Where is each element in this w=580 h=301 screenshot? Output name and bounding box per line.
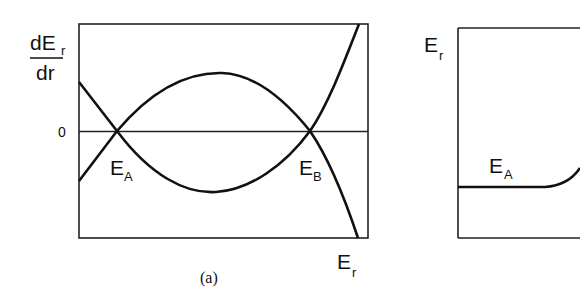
panel-caption: (a): [200, 269, 218, 287]
level-label: E: [489, 154, 503, 177]
point-b-sub: B: [313, 169, 322, 184]
ylabel-numerator: dE: [30, 31, 56, 54]
figure: dE r dr 0 E A E B E r (a) E r E A: [0, 0, 580, 301]
xlabel: E: [337, 250, 351, 273]
er-profile-curve: [458, 168, 580, 187]
ylabel-sub: r: [439, 48, 444, 63]
xlabel-sub: r: [352, 265, 357, 280]
level-label-sub: A: [504, 167, 513, 182]
zero-tick-label: 0: [58, 124, 66, 140]
point-b-label: E: [299, 156, 313, 179]
ylabel-numerator-sub: r: [61, 43, 66, 58]
point-a-label: E: [110, 156, 124, 179]
ylabel: E: [424, 33, 438, 56]
ylabel-denominator: dr: [36, 61, 55, 84]
panel-a: dE r dr 0 E A E B E r (a): [30, 24, 368, 287]
point-a-sub: A: [124, 169, 133, 184]
panel-b: E r E A: [424, 28, 580, 238]
